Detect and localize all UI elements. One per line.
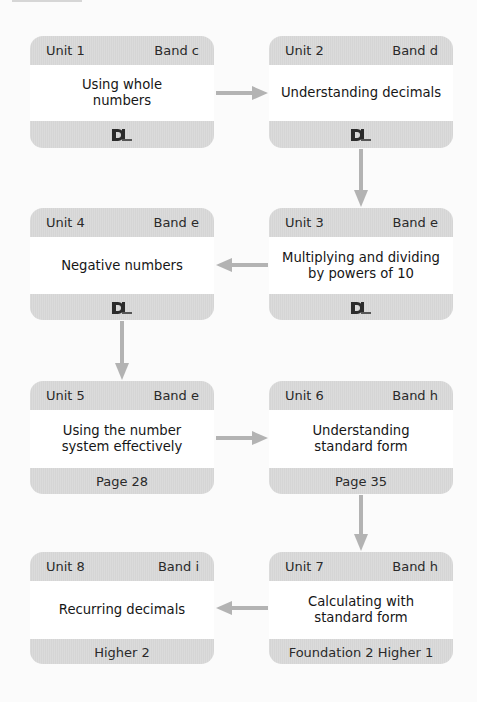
title-line: Negative numbers	[61, 258, 183, 274]
card-header: Unit 2 Band d	[269, 36, 453, 65]
unit-label: Unit 1	[46, 43, 85, 58]
unit-card-6[interactable]: Unit 6 Band h Understanding standard for…	[269, 381, 453, 494]
band-label: Band h	[392, 388, 438, 403]
arrow-down-icon	[353, 494, 369, 552]
dl-logo-icon	[350, 300, 372, 316]
page-reference: Page 28	[96, 474, 148, 489]
unit-card-3[interactable]: Unit 3 Band e Multiplying and dividing b…	[269, 208, 453, 320]
unit-card-1[interactable]: Unit 1 Band c Using whole numbers	[30, 36, 214, 148]
card-footer: Higher 2	[30, 639, 214, 664]
title-line: Understanding	[312, 423, 409, 439]
card-title: Multiplying and dividing by powers of 10	[269, 237, 453, 294]
title-line: Using the number	[63, 423, 181, 439]
unit-label: Unit 8	[46, 559, 85, 574]
unit-label: Unit 3	[285, 215, 324, 230]
card-footer: Foundation 2 Higher 1	[269, 639, 453, 664]
card-footer: Page 28	[30, 468, 214, 494]
unit-label: Unit 4	[46, 215, 85, 230]
band-label: Band c	[154, 43, 199, 58]
band-label: Band h	[392, 559, 438, 574]
card-title: Negative numbers	[30, 237, 214, 294]
unit-card-4[interactable]: Unit 4 Band e Negative numbers	[30, 208, 214, 320]
arrow-down-icon	[114, 320, 130, 381]
dl-logo-icon	[111, 127, 133, 143]
card-header: Unit 6 Band h	[269, 381, 453, 410]
unit-card-5[interactable]: Unit 5 Band e Using the number system ef…	[30, 381, 214, 494]
card-header: Unit 7 Band h	[269, 552, 453, 581]
title-line: Multiplying and dividing	[282, 250, 440, 266]
card-header: Unit 1 Band c	[30, 36, 214, 65]
unit-card-7[interactable]: Unit 7 Band h Calculating with standard …	[269, 552, 453, 664]
card-footer	[30, 294, 214, 320]
card-header: Unit 3 Band e	[269, 208, 453, 237]
unit-label: Unit 7	[285, 559, 324, 574]
card-title: Recurring decimals	[30, 581, 214, 639]
arrow-left-icon	[214, 600, 270, 616]
arrow-down-icon	[353, 148, 369, 208]
title-line: standard form	[314, 439, 407, 455]
card-title: Calculating with standard form	[269, 581, 453, 639]
card-header: Unit 4 Band e	[30, 208, 214, 237]
title-line: Using whole	[82, 77, 162, 93]
title-line: numbers	[93, 93, 151, 109]
band-label: Band d	[392, 43, 438, 58]
dl-logo-icon	[350, 127, 372, 143]
arrow-left-icon	[214, 257, 270, 273]
card-title: Understanding standard form	[269, 410, 453, 468]
title-line: Recurring decimals	[59, 602, 185, 618]
title-line: system effectively	[62, 439, 183, 455]
card-footer	[269, 294, 453, 320]
unit-label: Unit 5	[46, 388, 85, 403]
card-title: Using the number system effectively	[30, 410, 214, 468]
card-title: Understanding decimals	[269, 65, 453, 121]
card-header: Unit 5 Band e	[30, 381, 214, 410]
band-label: Band i	[158, 559, 199, 574]
card-footer: Page 35	[269, 468, 453, 494]
band-label: Band e	[153, 388, 199, 403]
tier-reference: Foundation 2 Higher 1	[289, 645, 434, 660]
title-line: Understanding decimals	[281, 85, 441, 101]
unit-label: Unit 6	[285, 388, 324, 403]
band-label: Band e	[392, 215, 438, 230]
card-title: Using whole numbers	[30, 65, 214, 121]
title-line: by powers of 10	[308, 266, 414, 282]
arrow-right-icon	[214, 85, 270, 101]
unit-label: Unit 2	[285, 43, 324, 58]
top-rule	[12, 0, 82, 2]
band-label: Band e	[153, 215, 199, 230]
tier-reference: Higher 2	[94, 645, 150, 660]
card-footer	[30, 121, 214, 148]
arrow-right-icon	[214, 430, 270, 446]
page-reference: Page 35	[335, 474, 387, 489]
title-line: Calculating with	[308, 594, 414, 610]
card-footer	[269, 121, 453, 148]
dl-logo-icon	[111, 300, 133, 316]
unit-card-8[interactable]: Unit 8 Band i Recurring decimals Higher …	[30, 552, 214, 664]
title-line: standard form	[314, 610, 407, 626]
card-header: Unit 8 Band i	[30, 552, 214, 581]
unit-card-2[interactable]: Unit 2 Band d Understanding decimals	[269, 36, 453, 148]
